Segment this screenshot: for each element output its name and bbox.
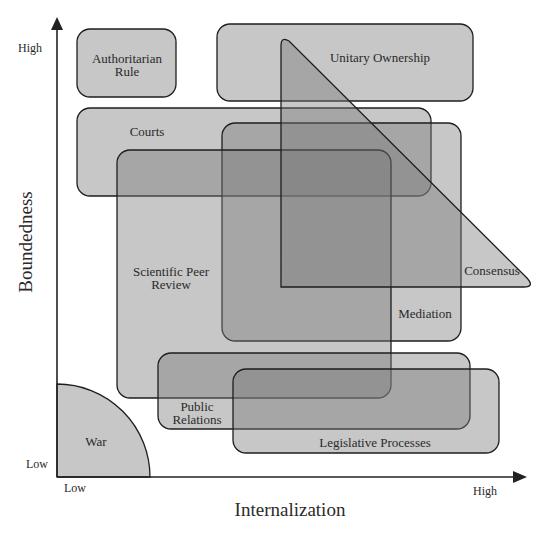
label-courts: Courts	[130, 124, 165, 139]
x-axis-high-label: High	[473, 484, 497, 498]
label-legislative-processes: Legislative Processes	[319, 435, 431, 450]
y-axis-title: Boundedness	[15, 191, 36, 292]
y-axis-low-label: Low	[26, 457, 48, 471]
x-axis-low-label: Low	[64, 481, 86, 495]
label-mediation: Mediation	[398, 306, 452, 321]
label-war: War	[85, 434, 107, 449]
x-axis-title: Internalization	[235, 499, 346, 520]
label-unitary-ownership: Unitary Ownership	[330, 50, 430, 65]
label-scientific-peer-review-2: Review	[151, 277, 191, 292]
label-authoritarian-rule-2: Rule	[115, 64, 140, 79]
boundedness-internalization-diagram: Authoritarian Rule Unitary Ownership Con…	[0, 0, 554, 534]
label-public-relations-2: Relations	[172, 412, 221, 427]
y-axis-arrow-icon	[51, 17, 63, 30]
label-consensus: Consensus	[464, 263, 520, 278]
x-axis-arrow-icon	[513, 471, 527, 483]
y-axis-high-label: High	[18, 41, 42, 55]
